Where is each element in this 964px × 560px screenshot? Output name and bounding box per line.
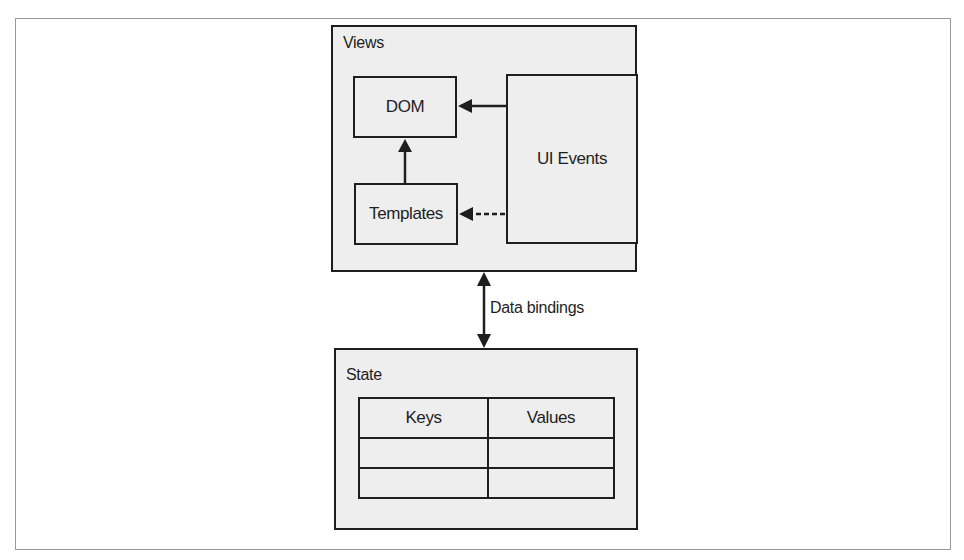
data-bindings-label: Data bindings [490, 299, 584, 317]
ui-events-to-dom-arrow [458, 99, 506, 113]
data-bindings-double-arrow [477, 272, 491, 348]
arrows-layer [0, 0, 964, 560]
ui-events-to-templates-dashed-arrow [459, 207, 505, 221]
templates-to-dom-arrow [398, 139, 412, 183]
